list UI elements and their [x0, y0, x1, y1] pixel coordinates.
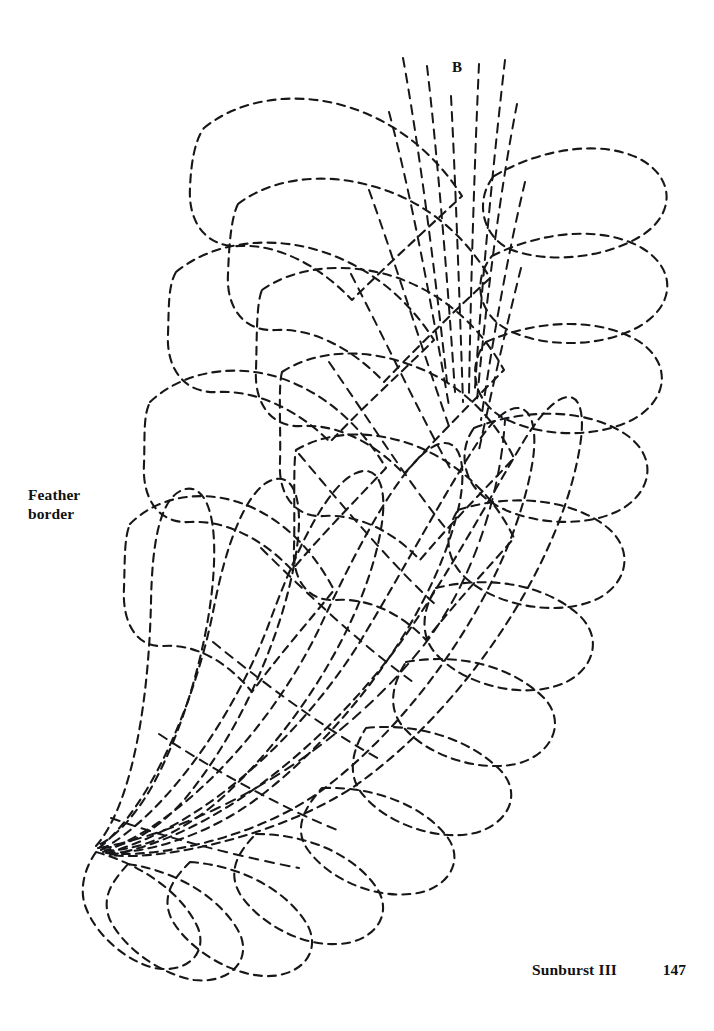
plume-upper-02	[228, 179, 490, 382]
vein-14	[261, 548, 413, 682]
vein-16	[159, 734, 337, 830]
plume-right-01	[483, 148, 667, 257]
plume-bottom-05	[83, 852, 201, 969]
page-footer: Sunburst III 147	[0, 961, 714, 991]
spine-line-main	[98, 420, 505, 848]
plume-upper-04	[280, 354, 514, 560]
plume-right-02	[480, 234, 667, 343]
footer-pattern-title: Sunburst III	[532, 961, 617, 980]
vein-05	[475, 60, 505, 388]
plume-upper-01	[190, 99, 462, 300]
caption-feather-border: Feather border	[28, 486, 80, 524]
vein-04	[469, 64, 479, 394]
plume-bottom-03	[167, 862, 312, 976]
section-marker-b: B	[452, 58, 462, 76]
plume-group-bottom	[83, 788, 455, 981]
footer-page-number: 147	[663, 961, 686, 980]
vein-07	[477, 104, 517, 400]
plume-upper-08	[124, 496, 334, 692]
pattern-page: Feather border B Sunburst III 147	[0, 0, 714, 1031]
plume-outer-05	[106, 408, 534, 854]
plume-outer-06	[110, 397, 582, 856]
feather-border-pattern	[0, 0, 714, 1031]
plume-right-04	[465, 414, 648, 522]
plume-right-03	[475, 324, 662, 433]
